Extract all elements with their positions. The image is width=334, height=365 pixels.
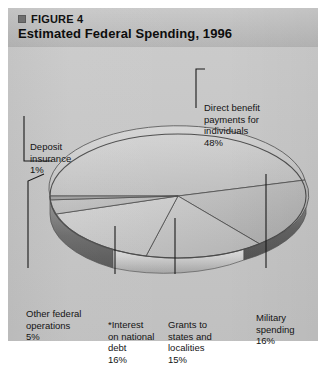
figure-tag-row: FIGURE 4 [18,13,83,25]
callout-deposit-insurance: Deposit insurance 1% [30,141,71,176]
callout-line: debt [108,342,127,353]
callout-line: spending [256,324,295,335]
callout-line: on national [108,331,154,342]
callout-line: operations [26,320,70,331]
figure-number: FIGURE 4 [31,13,83,25]
callout-percent: 48% [204,137,260,149]
callout-other-federal: Other federal operations 5% [26,308,81,343]
callout-line: insurance [30,153,71,164]
figure-title: Estimated Federal Spending, 1996 [18,26,232,41]
figure-panel: FIGURE 4 Estimated Federal Spending, 199… [8,8,318,341]
figure-header: FIGURE 4 Estimated Federal Spending, 199… [8,8,318,47]
callout-percent: 1% [30,164,71,176]
callout-line: localities [168,342,204,353]
callout-line: *Interest [108,319,143,330]
square-bullet-icon [18,15,26,23]
callout-line: Other federal [26,308,81,319]
callout-grants-to-states: Grants to states and localities 15% [168,319,212,365]
callout-percent: 5% [26,331,81,343]
callout-direct-benefit: Direct benefit payments for individuals … [204,102,260,148]
callout-line: Direct benefit [204,102,260,113]
pie-chart-graphic [8,46,318,341]
callout-percent: 16% [256,335,295,347]
callout-line: Grants to [168,319,207,330]
callout-military-spending: Military spending 16% [256,312,295,347]
callout-interest-on-national-debt: *Interest on national debt 16% [108,319,154,365]
callout-line: payments for [204,114,259,125]
callout-line: individuals [204,125,248,136]
callout-line: Deposit [30,141,62,152]
callout-percent: 15% [168,354,212,365]
callout-line: Military [256,312,286,323]
callout-line: states and [168,331,212,342]
callout-percent: 16% [108,354,154,365]
pie-chart: Direct benefit payments for individuals … [8,46,318,341]
